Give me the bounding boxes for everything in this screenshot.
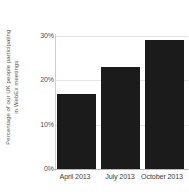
bar-series	[56, 36, 188, 169]
y-tick-label-20: 20%	[32, 76, 54, 84]
y-tick-label-30: 30%	[32, 32, 54, 40]
bar-chart: Percentage of our UK people participatin…	[0, 0, 189, 196]
bar-july-2013[interactable]	[101, 67, 140, 169]
bar-april-2013[interactable]	[57, 94, 96, 169]
x-tick-label-october-2013: October 2013	[134, 172, 189, 182]
x-axis-tick-labels: April 2013 July 2013 October 2013	[47, 172, 189, 186]
x-axis-left-tick	[47, 169, 56, 170]
y-axis-tick-labels: 30% 20% 10% 0%	[28, 0, 54, 196]
x-axis-line	[47, 169, 188, 170]
y-tick-label-10: 10%	[32, 121, 54, 129]
bar-october-2013[interactable]	[145, 40, 184, 169]
y-axis-title: Percentage of our UK people participatin…	[0, 0, 26, 175]
y-axis-title-line-2: in WebEx meetings	[13, 30, 21, 145]
